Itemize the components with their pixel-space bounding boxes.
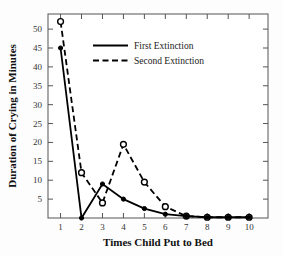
y-tick-label: 30: [33, 100, 43, 110]
data-point-marker: [205, 215, 209, 219]
x-axis-title: Times Child Put to Bed: [103, 236, 213, 248]
x-tick-label: 5: [142, 222, 147, 232]
data-point-marker: [121, 141, 127, 147]
y-tick-label: 35: [33, 81, 43, 91]
y-tick-label: 15: [33, 156, 43, 166]
y-tick-label: 40: [33, 62, 43, 72]
x-tick-label: 8: [205, 222, 210, 232]
data-point-marker: [79, 216, 83, 220]
data-point-marker: [226, 215, 230, 219]
data-point-marker: [141, 179, 147, 185]
data-point-marker: [100, 200, 106, 206]
data-point-marker: [79, 170, 85, 176]
data-point-marker: [163, 212, 167, 216]
data-point-marker: [58, 46, 62, 50]
data-point-marker: [142, 206, 146, 210]
x-tick-label: 2: [79, 222, 84, 232]
y-tick-label: 10: [33, 175, 43, 185]
y-tick-label: 50: [33, 24, 43, 34]
x-tick-label: 9: [226, 222, 231, 232]
chart-figure: 5101520253035404550 12345678910 Duration…: [0, 0, 283, 256]
data-point-marker: [184, 214, 188, 218]
y-tick-label: 25: [33, 119, 43, 129]
y-tick-label: 45: [33, 43, 43, 53]
x-tick-label: 6: [163, 222, 168, 232]
data-point-marker: [121, 197, 125, 201]
x-tick-label: 10: [245, 222, 255, 232]
y-axis-title: Duration of Crying in Minutes: [6, 43, 18, 187]
x-tick-label: 3: [100, 222, 105, 232]
legend-label-second-extinction: Second Extinction: [134, 56, 204, 66]
y-tick-label: 5: [38, 194, 43, 204]
x-tick-label: 4: [121, 222, 126, 232]
x-tick-label: 1: [58, 222, 63, 232]
data-point-marker: [100, 182, 104, 186]
y-tick-label: 20: [33, 137, 43, 147]
data-point-marker: [162, 204, 168, 210]
x-tick-label: 7: [184, 222, 189, 232]
data-point-marker: [247, 215, 251, 219]
data-point-marker: [58, 19, 64, 25]
legend-label-first-extinction: First Extinction: [134, 41, 194, 51]
crying-duration-line-chart: 5101520253035404550 12345678910 Duration…: [0, 0, 283, 256]
